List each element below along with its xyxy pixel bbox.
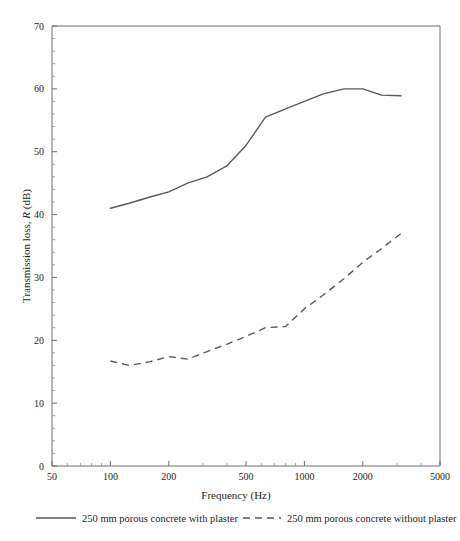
y-tick-label: 40 [34,209,44,220]
x-axis-title: Frequency (Hz) [201,489,271,502]
legend-label-without-plaster: 250 mm porous concrete without plaster [287,513,457,524]
x-tick-label: 50 [47,471,57,482]
plot-frame [52,26,440,466]
y-tick-label: 60 [34,83,44,94]
legend: 250 mm porous concrete with plaster 250 … [36,513,457,524]
y-tick-label: 10 [34,398,44,409]
data-series-group [110,89,401,366]
x-tick-label: 100 [103,471,118,482]
x-tick-label: 500 [239,471,254,482]
chart-figure: 010203040506070 50100200500100020005000 … [0,0,460,541]
y-tick-label: 20 [34,335,44,346]
series-line-without-plaster [110,233,401,365]
y-axis-tick-labels: 010203040506070 [34,21,44,472]
y-tick-label: 0 [39,461,44,472]
y-axis-title-label: Transmission loss, R (dB) [20,189,33,303]
y-tick-label: 50 [34,146,44,157]
x-tick-label: 5000 [430,471,450,482]
y-axis-title: Transmission loss, R (dB) [20,189,33,303]
y-axis-ticks [52,26,57,466]
x-axis-tick-labels: 50100200500100020005000 [47,471,450,482]
y-tick-label: 70 [34,21,44,32]
x-tick-label: 200 [161,471,176,482]
x-axis-ticks [52,461,440,466]
x-tick-label: 1000 [294,471,314,482]
x-tick-label: 2000 [353,471,373,482]
series-line-with-plaster [110,89,401,208]
x-axis-title-label: Frequency (Hz) [201,489,271,502]
y-tick-label: 30 [34,272,44,283]
transmission-loss-line-chart: 010203040506070 50100200500100020005000 … [0,0,460,541]
legend-label-with-plaster: 250 mm porous concrete with plaster [82,513,239,524]
